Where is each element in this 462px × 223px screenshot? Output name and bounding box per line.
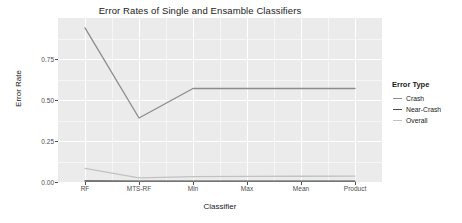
x-tick-mark: [355, 182, 356, 185]
legend-items: CrashNear-CrashOverall: [392, 93, 462, 126]
y-tick-label: 0.25: [14, 138, 54, 145]
legend-item[interactable]: Near-Crash: [392, 104, 462, 115]
legend-key-icon: [392, 104, 403, 115]
y-tick-mark: [55, 100, 58, 101]
legend-label: Crash: [406, 94, 424, 103]
legend-key-icon: [392, 93, 403, 104]
x-tick-mark: [139, 182, 140, 185]
legend-color-swatch: [393, 98, 402, 100]
chart-container: Error Rates of Single and Ensamble Class…: [0, 0, 462, 223]
x-axis-tick-labels: RFMTS-RFMinMaxMeanProduct: [58, 185, 382, 197]
x-axis-title: Classifier: [58, 202, 382, 211]
legend-item[interactable]: Overall: [392, 115, 462, 126]
legend-color-swatch: [393, 120, 402, 122]
x-tick-label: Mean: [271, 185, 331, 193]
y-axis-title: Error Rate: [14, 49, 23, 129]
x-tick-label: Product: [325, 185, 385, 193]
series-lines: [58, 18, 382, 182]
legend-title: Error Type: [392, 80, 462, 89]
x-tick-label: Min: [163, 185, 223, 193]
legend-item[interactable]: Crash: [392, 93, 462, 104]
x-tick-label: Max: [217, 185, 277, 193]
legend: Error Type CrashNear-CrashOverall: [392, 80, 462, 126]
x-tick-mark: [301, 182, 302, 185]
legend-label: Overall: [406, 116, 428, 125]
series-line-crash: [85, 28, 355, 118]
gridline-horizontal-major: [58, 182, 382, 183]
y-tick-label: 0.00: [14, 179, 54, 186]
x-tick-mark: [247, 182, 248, 185]
series-line-overall: [85, 168, 355, 178]
plot-panel: [58, 18, 382, 182]
x-tick-mark: [193, 182, 194, 185]
x-tick-mark: [85, 182, 86, 185]
legend-color-swatch: [393, 109, 402, 111]
y-tick-mark: [55, 141, 58, 142]
y-tick-mark: [55, 182, 58, 183]
x-tick-label: RF: [55, 185, 115, 193]
legend-label: Near-Crash: [406, 105, 441, 114]
legend-key-icon: [392, 115, 403, 126]
x-tick-label: MTS-RF: [109, 185, 169, 193]
chart-title: Error Rates of Single and Ensamble Class…: [0, 5, 400, 16]
y-tick-mark: [55, 59, 58, 60]
